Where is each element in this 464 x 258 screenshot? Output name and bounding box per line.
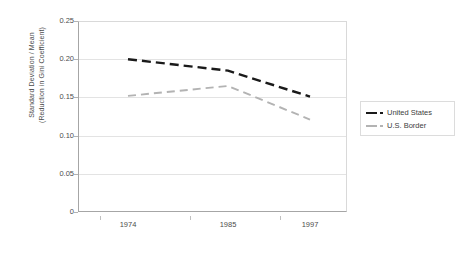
legend-label-us-border: U.S. Border: [387, 121, 426, 130]
line-chart: Standard Deviation / Mean (Reduction in …: [0, 0, 464, 258]
gridline-0.20: [79, 59, 346, 60]
y-tick-label-2: 0.10: [44, 132, 74, 140]
gridline-0.05: [79, 174, 346, 175]
legend-label-united-states: United States: [387, 108, 432, 117]
gridline-0.10: [79, 136, 346, 137]
x-tick-label-1985: 1985: [198, 220, 258, 230]
y-tick-label-1: 0.05: [44, 170, 74, 178]
y-tick-label-4: 0.20: [44, 55, 74, 63]
legend-swatch-united-states: [366, 109, 386, 117]
legend-swatch-us-border: [366, 122, 386, 130]
x-tick-label-1997: 1997: [280, 220, 340, 230]
y-tick-label-5: 0.25: [44, 17, 74, 25]
legend-item-united-states: United States: [366, 106, 450, 119]
gridline-0.15: [79, 97, 346, 98]
x-axis-ticks: 1974 1985 1997: [78, 216, 347, 230]
plot-area: [78, 21, 347, 212]
legend: United States U.S. Border: [360, 101, 455, 136]
y-tick-label-0: 0: [44, 208, 74, 216]
y-tick-label-3: 0.15: [44, 93, 74, 101]
y-axis-ticks: 0 0.05 0.10 0.15 0.20 0.25: [40, 21, 74, 212]
x-tick-label-1974: 1974: [98, 220, 158, 230]
y-tickmark-0: [74, 212, 78, 213]
legend-item-us-border: U.S. Border: [366, 119, 450, 132]
y-axis-title-line-1: Standard Deviation / Mean: [27, 0, 37, 155]
x-tickmark-1: [190, 216, 191, 220]
